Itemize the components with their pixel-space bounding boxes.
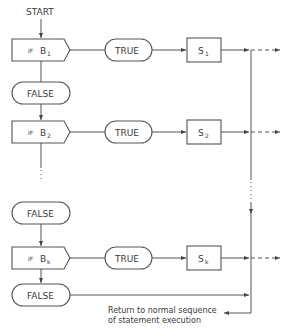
condition-sub: 1	[47, 50, 51, 57]
flowchart: START IF B 1 TRUE S 1 FALSE IF B 2 TRUE …	[0, 0, 293, 334]
return-note-line2: of statement execution	[108, 316, 201, 325]
stmt-var: S	[198, 128, 204, 138]
statement-sk-box	[187, 246, 221, 270]
if-prefix: IF	[28, 47, 34, 54]
decision-row-k: IF B k TRUE S k FALSE	[12, 246, 280, 306]
condition-sub: k	[47, 258, 51, 265]
stmt-sub: 2	[205, 132, 209, 139]
stmt-var: S	[198, 46, 204, 56]
condition-var: B	[40, 254, 46, 264]
false-label: FALSE	[27, 209, 54, 219]
stmt-sub: k	[205, 258, 209, 265]
if-prefix: IF	[28, 129, 34, 136]
decision-row-2: IF B 2 TRUE S 2 FALSE	[12, 120, 280, 246]
condition-var: B	[40, 46, 46, 56]
true-label: TRUE	[114, 128, 139, 138]
true-label: TRUE	[114, 254, 139, 264]
stmt-sub: 1	[205, 50, 209, 57]
stmt-var: S	[198, 254, 204, 264]
return-note-line1: Return to normal sequence	[108, 306, 217, 315]
start-label: START	[26, 7, 54, 17]
statement-s1-box	[187, 38, 221, 62]
condition-sub: 2	[47, 132, 51, 139]
statement-s2-box	[187, 120, 221, 144]
false-label: FALSE	[27, 291, 54, 301]
false-label: FALSE	[27, 89, 54, 99]
true-label: TRUE	[114, 46, 139, 56]
condition-var: B	[40, 128, 46, 138]
decision-row-1: IF B 1 TRUE S 1 FALSE	[12, 38, 280, 120]
if-prefix: IF	[28, 255, 34, 262]
